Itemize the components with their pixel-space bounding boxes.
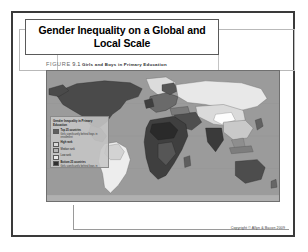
figure-area: FIGURE 9.1 Girls and Boys in Primary Edu… (35, 61, 287, 217)
legend-swatch-icon (53, 142, 59, 147)
legend-title: Gender Inequality in Primary Education (53, 119, 106, 127)
world-map: Gender Inequality in Primary Education T… (46, 70, 280, 202)
legend-item-label: Top 25 countries (61, 129, 82, 132)
legend-item-label: Median rank (61, 148, 75, 151)
slide-frame: Gender Inequality on a Global and Local … (11, 11, 295, 237)
legend-item-label: High rank (61, 141, 73, 144)
figure-caption: FIGURE 9.1 Girls and Boys in Primary Edu… (46, 61, 167, 67)
legend-item: Median rank (53, 148, 106, 153)
figure-number: 9.1 (72, 61, 80, 67)
legend-item-label: Bottom 25 countries (61, 161, 86, 164)
legend-item: Top 25 countries Girls significantly beh… (53, 129, 106, 140)
legend-swatch-icon (53, 148, 59, 153)
legend-swatch-icon (53, 129, 59, 134)
legend-swatch-icon (53, 155, 59, 160)
map-legend: Gender Inequality in Primary Education T… (50, 116, 109, 168)
legend-item: Bottom 25 countries Girls significantly … (53, 161, 106, 168)
legend-item: High rank (53, 141, 106, 146)
copyright-notice: Copyright © Allyn & Bacon 2009 (231, 226, 285, 230)
slide-title-box: Gender Inequality on a Global and Local … (25, 19, 219, 55)
legend-swatch-icon (53, 161, 59, 166)
legend-item-sub: Girls significantly behind boys in enrol… (61, 133, 98, 140)
figure-label: FIGURE (46, 61, 71, 67)
legend-item: Low rank (53, 154, 106, 159)
legend-item-sub: Girls significantly behind boys in enrol… (61, 165, 98, 168)
figure-caption-text: Girls and Boys in Primary Education (82, 62, 167, 67)
legend-item-label: Low rank (61, 154, 72, 157)
page-title: Gender Inequality on a Global and Local … (26, 24, 218, 50)
